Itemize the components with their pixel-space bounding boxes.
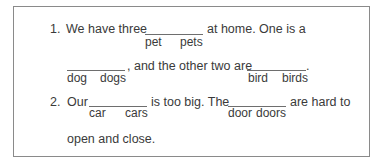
blank-option[interactable]: pet bbox=[145, 36, 162, 49]
item-1-text-part-2: at home. One is a bbox=[207, 22, 306, 36]
blank-option[interactable]: pets bbox=[180, 36, 203, 49]
blank-option[interactable]: dogs bbox=[100, 72, 126, 85]
item-2-text-part-1: Our bbox=[67, 95, 88, 109]
item-2-text-part-3: are hard to bbox=[290, 95, 350, 109]
item-number-2: 2. bbox=[50, 95, 60, 109]
item-1-text-part-1: We have three bbox=[66, 22, 147, 36]
blank-option[interactable]: dog bbox=[67, 72, 87, 85]
item-1-text-part-3: , and the other two are bbox=[127, 59, 252, 73]
item-1-text-part-4: . bbox=[306, 59, 309, 73]
item-number-1: 1. bbox=[50, 22, 60, 36]
item-2-text-part-2: is too big. The bbox=[151, 95, 229, 109]
blank-option[interactable]: bird bbox=[248, 72, 268, 85]
blank-option[interactable]: car bbox=[89, 107, 106, 120]
blank-option[interactable]: door bbox=[228, 107, 252, 120]
blank-option[interactable]: birds bbox=[282, 72, 308, 85]
item-2-text-part-4: open and close. bbox=[67, 132, 155, 146]
blank-option[interactable]: doors bbox=[256, 107, 286, 120]
blank-option[interactable]: cars bbox=[125, 107, 148, 120]
